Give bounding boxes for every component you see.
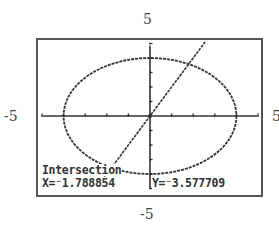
xmin-label: -5 bbox=[4, 109, 18, 123]
ymin-label: -5 bbox=[140, 207, 154, 221]
xmax-label: 5 bbox=[272, 109, 279, 123]
ymax-label: 5 bbox=[143, 12, 152, 26]
y-value-readout: Y=⁻3.577709 bbox=[152, 177, 225, 189]
calculator-screen: Intersection X=⁻1.788854 Y=⁻3.577709 bbox=[36, 38, 263, 197]
origin-point bbox=[148, 114, 152, 118]
x-value-readout: X=⁻1.788854 bbox=[42, 177, 115, 189]
intersection-label: Intersection bbox=[42, 164, 122, 176]
